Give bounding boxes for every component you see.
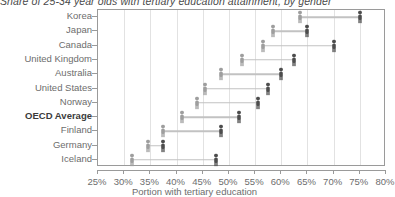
range-connector: [242, 59, 294, 61]
person-icon: [304, 25, 311, 38]
person-icon: [291, 53, 298, 66]
person-icon: [239, 53, 246, 66]
x-axis-tick: [202, 170, 203, 174]
y-axis-label-japan: Japan: [0, 25, 92, 35]
y-axis-label-finland: Finland: [0, 125, 92, 135]
gridline: [281, 10, 282, 165]
y-axis-label-australia: Australia: [0, 68, 92, 78]
x-axis-tick: [280, 170, 281, 174]
person-icon: [194, 96, 201, 109]
y-axis-label-korea: Korea: [0, 11, 92, 21]
chart-title: Share of 25-34 year olds with tertiary e…: [0, 0, 389, 7]
y-axis-label-oecd-average: OECD Average: [0, 111, 92, 121]
range-connector: [273, 31, 307, 33]
person-icon: [160, 125, 167, 138]
x-axis-tick: [333, 170, 334, 174]
range-connector: [263, 45, 334, 47]
range-connector: [300, 16, 360, 18]
range-connector: [205, 88, 268, 90]
x-axis-tick: [149, 170, 150, 174]
y-axis-label-united-kingdom: United Kingdom: [0, 54, 92, 64]
y-axis-labels: KoreaJapanCanadaUnited KingdomAustraliaU…: [0, 9, 92, 166]
x-axis-tick: [385, 170, 386, 174]
person-icon: [178, 111, 185, 124]
x-axis-tick: [306, 170, 307, 174]
plot-area: [97, 9, 385, 166]
person-icon: [265, 82, 272, 95]
gridline: [124, 10, 125, 165]
person-icon: [259, 39, 266, 52]
x-axis-tick: [359, 170, 360, 174]
x-axis-title: Portion with tertiary education: [0, 186, 389, 197]
x-axis-tick: [254, 170, 255, 174]
range-connector: [221, 73, 281, 75]
person-icon: [218, 68, 225, 81]
range-connector: [132, 159, 216, 161]
range-connector: [197, 102, 257, 104]
y-axis-label-germany: Germany: [0, 140, 92, 150]
y-axis-label-iceland: Iceland: [0, 154, 92, 164]
person-icon: [270, 25, 277, 38]
person-icon: [296, 11, 303, 24]
gridline: [334, 10, 335, 165]
x-axis-line: [97, 170, 385, 171]
person-icon: [160, 139, 167, 152]
person-icon: [202, 82, 209, 95]
x-axis-tick: [123, 170, 124, 174]
y-axis-label-canada: Canada: [0, 40, 92, 50]
person-icon: [236, 111, 243, 124]
x-axis-tick: [97, 170, 98, 174]
person-icon: [212, 153, 219, 166]
y-axis-label-norway: Norway: [0, 97, 92, 107]
x-axis-tick: [228, 170, 229, 174]
range-connector: [182, 116, 240, 118]
person-icon: [144, 139, 151, 152]
x-axis-tick: [176, 170, 177, 174]
person-icon: [218, 125, 225, 138]
gridline: [360, 10, 361, 165]
person-icon: [356, 11, 363, 24]
person-icon: [278, 68, 285, 81]
person-icon: [254, 96, 261, 109]
range-connector: [163, 131, 221, 133]
person-icon: [129, 153, 136, 166]
y-axis-label-united-states: United States: [0, 83, 92, 93]
gridline: [177, 10, 178, 165]
person-icon: [330, 39, 337, 52]
